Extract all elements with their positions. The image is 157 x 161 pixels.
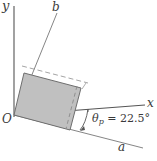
diagram-svg bbox=[0, 0, 157, 161]
rotated-rectangle-shape bbox=[14, 73, 81, 130]
theta-subscript: p bbox=[99, 117, 104, 126]
figure-canvas: y b x a O θp = 22.5° bbox=[0, 0, 157, 161]
theta-symbol: θ bbox=[92, 112, 99, 125]
dashed-corner-tick bbox=[82, 83, 86, 89]
angle-label: θp = 22.5° bbox=[92, 113, 150, 126]
x-axis-label: x bbox=[147, 97, 154, 109]
origin-label: O bbox=[2, 113, 12, 125]
b-axis-label: b bbox=[52, 1, 60, 13]
y-axis-label: y bbox=[2, 0, 9, 12]
a-axis-label: a bbox=[118, 141, 125, 153]
angle-equals-sign: = bbox=[107, 112, 116, 125]
angle-value: 22.5° bbox=[120, 112, 150, 125]
